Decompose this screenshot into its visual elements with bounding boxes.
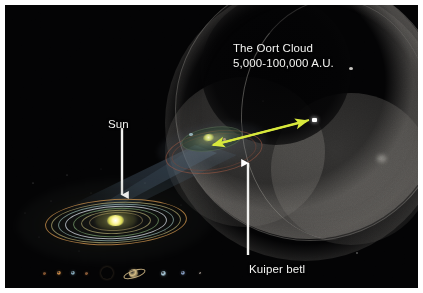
planet-venus (57, 271, 61, 275)
planet-mercury (43, 272, 46, 275)
oort-cloud-speck (349, 67, 353, 70)
oort-cloud-edge-marker (312, 118, 317, 122)
planet-row (39, 261, 219, 285)
space-diagram-canvas: The Oort Cloud 5,000-100,000 A.U. Sun Ku… (5, 5, 418, 288)
planet-mars (85, 272, 88, 275)
figure-frame: The Oort Cloud 5,000-100,000 A.U. Sun Ku… (0, 0, 423, 293)
inner-solar-system (45, 191, 185, 251)
planet-earth (71, 271, 75, 275)
kuiper-belt-system (163, 121, 273, 179)
planet-pluto (199, 272, 201, 274)
planet-saturn-ring (122, 267, 146, 282)
planet-jupiter (101, 267, 113, 279)
oort-cloud-distance: 5,000-100,000 A.U. (233, 56, 334, 71)
oort-cloud-glow-spot (377, 155, 386, 162)
planet-uranus (161, 271, 166, 276)
kuiper-belt-label: Kuiper betl (249, 263, 305, 275)
oort-cloud-label: The Oort Cloud 5,000-100,000 A.U. (233, 41, 334, 71)
oort-cloud-title: The Oort Cloud (233, 41, 334, 56)
sun-label: Sun (108, 118, 129, 130)
planet-neptune (181, 271, 185, 275)
